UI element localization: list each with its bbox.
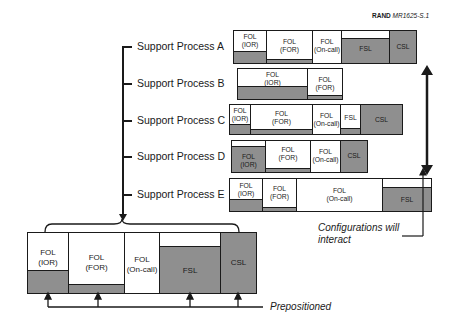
process-label-e: Support Process E	[137, 188, 225, 200]
branch-d	[122, 156, 132, 158]
tree-spine	[122, 46, 124, 216]
segment-fol-oncall: FOL (On-call)	[297, 179, 383, 211]
segment-csl: CSL	[390, 31, 416, 63]
segment-fol-ior: FOL (IOR)	[28, 233, 69, 293]
double-arrow-icon	[417, 65, 437, 175]
segment-fol-ior: FOL (IOR)	[232, 141, 266, 172]
segment-csl: CSL	[221, 233, 256, 293]
segment-csl: CSL	[341, 141, 367, 172]
segment-fol-oncall: FOL (On-call)	[311, 141, 341, 172]
branch-e	[122, 194, 132, 196]
segment-fol-for: FOL (FOR)	[263, 179, 297, 211]
reference-org: RAND	[372, 12, 391, 19]
segment-fol-oncall: FOL (On-call)	[313, 105, 341, 134]
process-label-c: Support Process C	[137, 114, 225, 126]
branch-a	[122, 46, 132, 48]
branch-c	[122, 120, 132, 122]
config-process-c: FOL (IOR) FOL (FOR) FOL (On-call) FSL CS…	[229, 104, 403, 135]
reference-code: MR1625-S.1	[393, 12, 430, 19]
segment-fol-ior: FOL (IOR)	[234, 31, 267, 63]
process-label-d: Support Process D	[137, 150, 225, 162]
segment-fol-oncall: FOL (On-call)	[313, 31, 342, 63]
interact-label-line1: Configurations will	[318, 222, 399, 234]
figure-reference: RAND MR1625-S.1	[372, 12, 429, 19]
segment-fol-for: FOL (FOR)	[308, 69, 342, 99]
config-process-b: FOL (IOR) FOL (FOR)	[237, 68, 343, 100]
process-label-b: Support Process B	[137, 77, 225, 89]
process-label-a: Support Process A	[137, 40, 224, 52]
segment-fol-for: FOL (FOR)	[251, 105, 313, 134]
segment-fol-for: FOL (FOR)	[266, 141, 311, 172]
config-combined: FOL (IOR) FOL (FOR) FOL (On-call) FSL CS…	[27, 232, 257, 294]
segment-csl: CSL	[361, 105, 402, 134]
curly-brace-icon	[44, 219, 240, 233]
segment-fsl: FSL	[342, 31, 390, 63]
interact-label: Configurations will interact	[318, 222, 399, 246]
config-process-d: FOL (IOR) FOL (FOR) FOL (On-call) CSL	[231, 140, 368, 173]
prepositioned-arrows	[0, 290, 270, 310]
segment-fol-ior: FOL (IOR)	[238, 69, 308, 99]
prepositioned-label: Prepositioned	[270, 301, 331, 313]
segment-fol-ior: FOL (IOR)	[230, 105, 251, 134]
segment-fol-ior: FOL (IOR)	[230, 179, 263, 211]
segment-fsl: FSL	[341, 105, 361, 134]
interact-callout-arrow	[400, 168, 430, 240]
branch-b	[122, 83, 132, 85]
segment-fol-for: FOL (FOR)	[267, 31, 313, 63]
config-process-a: FOL (IOR) FOL (FOR) FOL (On-call) FSL CS…	[233, 30, 417, 64]
interact-label-line2: interact	[318, 234, 399, 246]
segment-fol-oncall: FOL (On-call)	[125, 233, 160, 293]
segment-fol-for: FOL (FOR)	[69, 233, 125, 293]
segment-fsl: FSL	[160, 233, 221, 293]
